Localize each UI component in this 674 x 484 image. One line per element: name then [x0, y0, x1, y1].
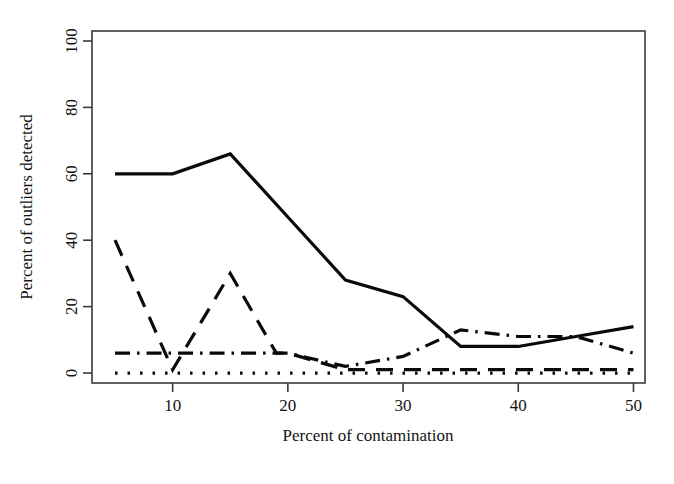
x-tick-label: 30 — [395, 396, 412, 415]
y-tick-label: 20 — [63, 298, 82, 315]
x-tick-label: 10 — [164, 396, 181, 415]
y-tick-label: 40 — [63, 232, 82, 249]
x-axis-title: Percent of contamination — [283, 426, 454, 445]
y-tick-label: 0 — [63, 369, 82, 378]
x-tick-label: 50 — [625, 396, 642, 415]
x-tick-label: 20 — [279, 396, 296, 415]
y-tick-label: 80 — [63, 99, 82, 116]
y-tick-label: 60 — [63, 165, 82, 182]
figure-background — [0, 0, 674, 484]
chart-figure: 1020304050 020406080100 Percent of conta… — [0, 0, 674, 484]
y-tick-label: 100 — [63, 28, 82, 54]
y-axis-title: Percent of outliers detected — [17, 114, 36, 300]
x-tick-label: 40 — [510, 396, 527, 415]
